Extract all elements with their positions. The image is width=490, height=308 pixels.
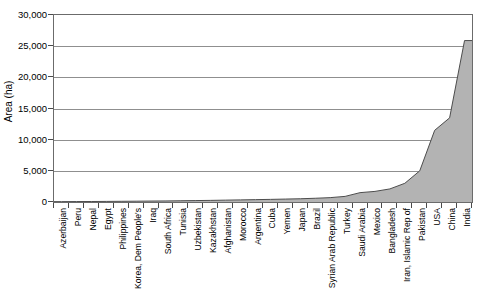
x-category-label: Argentina <box>251 208 260 245</box>
x-category-label-text: India <box>463 208 472 227</box>
x-category-label-text: Egypt <box>104 208 113 230</box>
x-category-label: Uzbekistan <box>191 208 200 251</box>
x-category-label-text: Philippines <box>119 208 128 250</box>
x-category-label-text: Saudi Arabia <box>358 208 367 257</box>
area-fill <box>54 41 472 202</box>
x-category-label: Saudi Arabia <box>355 208 364 257</box>
y-tick-label: 5,000 <box>23 164 47 175</box>
x-category-label: USA <box>430 208 439 226</box>
x-category-label-text: Bangladesh <box>388 208 397 253</box>
x-category-label: Kazakhstan <box>206 208 215 253</box>
x-category-label-text: Pakistan <box>418 208 427 241</box>
x-category-label-text: Kazakhstan <box>209 208 218 253</box>
x-category-label: Syrian Arab Republic <box>325 208 334 288</box>
x-category-label: Philippines <box>116 208 125 250</box>
x-category-label: Iran, Islamic Rep of <box>400 208 409 282</box>
x-category-label-text: Afghanistan <box>224 208 233 253</box>
x-category-label-text: Syrian Arab Republic <box>328 208 337 288</box>
x-category-label-text: Brazil <box>313 208 322 230</box>
area-outline <box>54 41 472 202</box>
x-category-label: China <box>445 208 454 230</box>
x-category-label: Iraq <box>146 208 155 223</box>
x-category-label: Peru <box>71 208 80 226</box>
y-tick-label: 15,000 <box>18 102 47 113</box>
x-axis-category-labels: AzerbaijanPeruNepalEgyptPhilippinesKorea… <box>53 208 473 308</box>
x-category-label-text: Tunisia <box>179 208 188 235</box>
x-category-label-text: China <box>448 208 457 230</box>
area-chart-figure: Area (ha) 05,00010,00015,00020,00025,000… <box>0 0 490 308</box>
y-axis-tick-labels: 05,00010,00015,00020,00025,00030,000 <box>14 0 50 210</box>
x-category-label: Cuba <box>265 208 274 229</box>
plot-area <box>53 14 473 203</box>
y-tick-label: 0 <box>42 196 47 207</box>
x-category-label-text: Korea, Dem People's <box>134 208 143 289</box>
x-category-label-text: Cuba <box>268 208 277 229</box>
x-category-label-text: Iran, Islamic Rep of <box>403 208 412 282</box>
x-category-label-text: Azerbaijan <box>59 208 68 249</box>
x-category-label: Yemen <box>280 208 289 234</box>
area-series <box>54 15 472 202</box>
x-category-label: India <box>460 208 469 227</box>
x-category-label: Afghanistan <box>221 208 230 253</box>
x-category-label: Brazil <box>310 208 319 230</box>
y-tick-label: 30,000 <box>18 9 47 20</box>
x-category-label-text: Japan <box>298 208 307 231</box>
x-category-label: Pakistan <box>415 208 424 241</box>
x-category-label-text: USA <box>433 208 442 226</box>
x-category-label-text: South Africa <box>164 208 173 254</box>
x-category-label: South Africa <box>161 208 170 254</box>
y-tick-label: 10,000 <box>18 133 47 144</box>
x-category-label: Nepal <box>86 208 95 230</box>
y-tick-label: 25,000 <box>18 40 47 51</box>
x-category-label: Japan <box>295 208 304 231</box>
y-axis-title-text: Area (ha) <box>4 81 15 123</box>
x-category-label-text: Uzbekistan <box>194 208 203 251</box>
x-category-label-text: Turkey <box>343 208 352 234</box>
x-category-label-text: Yemen <box>283 208 292 234</box>
x-category-label: Korea, Dem People's <box>131 208 140 289</box>
x-category-label: Turkey <box>340 208 349 234</box>
x-category-label: Egypt <box>101 208 110 230</box>
x-category-label: Bangladesh <box>385 208 394 253</box>
x-category-label: Mexico <box>370 208 379 235</box>
x-category-label-text: Mexico <box>373 208 382 235</box>
x-category-label-text: Nepal <box>89 208 98 230</box>
x-category-label: Azerbaijan <box>56 208 65 249</box>
x-category-label-text: Iraq <box>149 208 158 223</box>
x-category-label-text: Argentina <box>254 208 263 245</box>
y-tick-label: 20,000 <box>18 71 47 82</box>
x-category-label-text: Morocco <box>239 208 248 241</box>
x-category-label-text: Peru <box>74 208 83 226</box>
x-category-label: Tunisia <box>176 208 185 235</box>
x-category-label: Morocco <box>236 208 245 241</box>
